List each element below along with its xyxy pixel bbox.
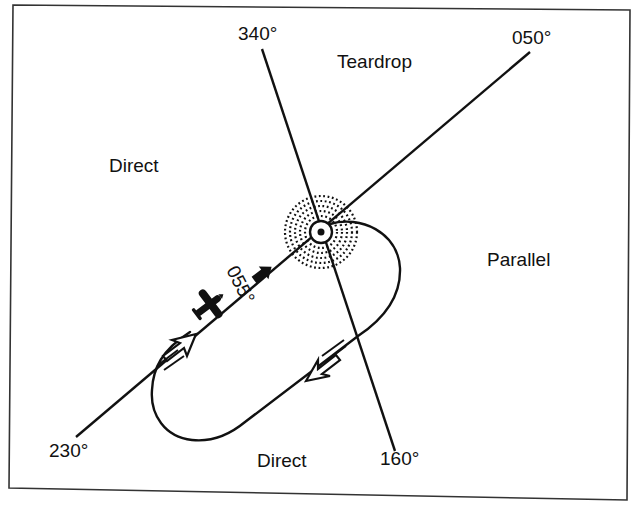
radial-label-050: 050° <box>512 27 551 48</box>
aircraft-heading-label: 055° <box>222 262 259 307</box>
radial-label-230: 230° <box>49 440 88 461</box>
airplane-icon <box>185 281 233 329</box>
radial-label-340: 340° <box>238 23 277 44</box>
holding-entry-diagram: 340° Teardrop 050° Direct Parallel 230° … <box>0 0 637 506</box>
inbound-arrow-icon <box>158 334 196 370</box>
sector-label-direct-left: Direct <box>109 155 159 176</box>
sector-label-parallel: Parallel <box>487 249 550 270</box>
radial-label-160: 160° <box>380 448 419 469</box>
radial-line-340-160 <box>262 49 395 451</box>
heading-arrow-icon <box>249 260 276 286</box>
sector-label-direct-bottom: Direct <box>257 450 307 471</box>
holding-pattern-track <box>152 222 400 441</box>
sector-label-teardrop: Teardrop <box>337 51 412 72</box>
outbound-arrow-icon <box>306 340 346 381</box>
